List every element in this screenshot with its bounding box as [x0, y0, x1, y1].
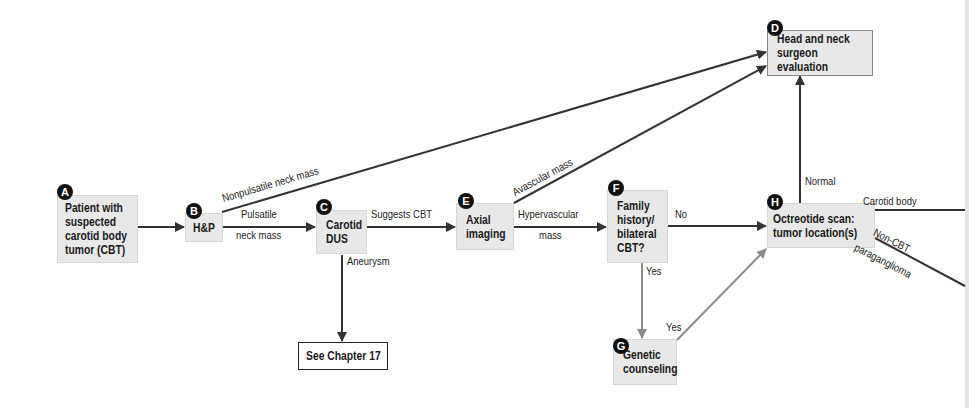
badge-d: D	[767, 20, 783, 36]
badge-h: H	[767, 194, 783, 210]
label-no: No	[675, 208, 689, 220]
badge-c: C	[316, 199, 332, 215]
node-c-carotid-dus: Carotid DUS	[316, 210, 367, 254]
node-d-label: Head and neck surgeon evaluation	[777, 32, 859, 74]
node-d-surgeon-evaluation: Head and neck surgeon evaluation	[767, 30, 873, 76]
edge-e-d	[514, 66, 766, 203]
node-b-label: H&P	[193, 221, 215, 235]
node-f-family-history: Family history/ bilateral CBT?	[607, 190, 668, 263]
see-chapter-label: See Chapter 17	[306, 349, 381, 363]
edge-b-d	[222, 52, 766, 212]
badge-f: F	[608, 180, 624, 196]
label-aneurysm: Aneurysm	[347, 255, 397, 267]
node-h-label: Octreotide scan: tumor location(s)	[773, 212, 857, 240]
label-mass: mass	[539, 229, 565, 241]
node-f-label: Family history/ bilateral CBT?	[617, 199, 657, 255]
label-neck-mass: neck mass	[236, 229, 289, 241]
label-normal: Normal	[805, 175, 840, 187]
node-c-label: Carotid DUS	[326, 218, 362, 246]
label-carotid-body: Carotid body	[863, 195, 925, 207]
label-suggests-cbt: Suggests CBT	[371, 208, 442, 220]
label-yes-g-h: Yes	[666, 321, 684, 333]
label-hypervascular: Hypervascular	[518, 208, 588, 220]
badge-a: A	[57, 184, 73, 200]
label-yes-f-g: Yes	[646, 265, 664, 277]
node-a-patient: Patient with suspected carotid body tumo…	[57, 195, 138, 263]
badge-g: G	[613, 338, 629, 354]
node-e-label: Axial imaging	[466, 213, 506, 241]
node-g-label: Genetic counseling	[623, 348, 677, 376]
edge-g-h	[677, 249, 766, 340]
node-see-chapter-17: See Chapter 17	[298, 342, 388, 370]
label-pulsatile: Pulsatile	[241, 208, 283, 220]
badge-e: E	[458, 193, 474, 209]
node-e-axial-imaging: Axial imaging	[456, 203, 514, 250]
badge-b: B	[186, 203, 202, 219]
node-a-label: Patient with suspected carotid body tumo…	[65, 201, 127, 257]
